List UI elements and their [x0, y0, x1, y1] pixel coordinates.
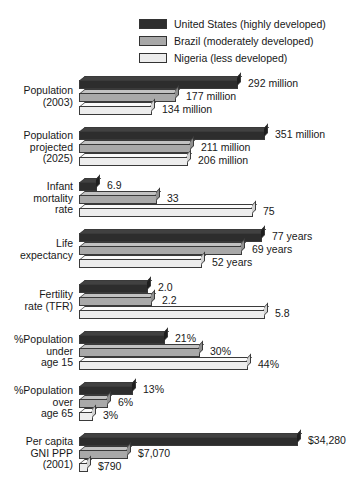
bar-us [79, 437, 298, 446]
bar-top-face [80, 293, 156, 297]
bar-value-label: 30% [210, 345, 231, 357]
category-label-line: age 15 [0, 357, 73, 369]
legend-swatch-us-icon [139, 19, 167, 29]
bar-value-label: 13% [143, 383, 164, 395]
bar-us [79, 335, 165, 344]
bar-br [79, 450, 128, 459]
bar-group-life-expectancy: Lifeexpectancy77 years69 years52 years [0, 229, 358, 268]
bar-us [79, 182, 97, 191]
bar-side-face [156, 188, 160, 201]
category-label-line: age 65 [0, 408, 73, 420]
bar-value-label: 2.2 [162, 294, 177, 306]
bar-value-label: $34,280 [308, 434, 346, 446]
category-label-life-expectancy: Lifeexpectancy [0, 238, 73, 261]
legend-item-us: United States (highly developed) [139, 16, 354, 32]
bar-side-face [241, 239, 245, 252]
bar-side-face [237, 73, 241, 86]
bar-us [79, 284, 148, 293]
legend-item-ng: Nigeria (less developed) [139, 50, 354, 66]
bar-top-face [80, 229, 266, 233]
legend-label-us: United States (highly developed) [174, 18, 326, 30]
bar-group-population-2003: Population(2003)292 million177 million13… [0, 76, 358, 115]
bar-value-label: 134 million [162, 103, 212, 115]
bar-top-face [80, 306, 269, 310]
bar-top-face [80, 280, 152, 284]
bar-side-face [127, 443, 131, 456]
category-label-percent-population-under-15: %Populationunderage 15 [0, 334, 73, 369]
category-label-infant-mortality-rate: Infantmortalityrate [0, 181, 73, 216]
bar-side-face [151, 290, 155, 303]
bar-br [79, 297, 152, 306]
category-label-line: (2001) [0, 459, 73, 471]
category-label-line: rate [0, 204, 73, 216]
bar-top-face [80, 140, 195, 144]
bar-group-population-projected-2025: Populationprojected(2025)351 million211 … [0, 127, 358, 166]
bar-side-face [199, 341, 203, 354]
bar-top-face [80, 357, 252, 361]
bar-top-face [80, 191, 161, 195]
bar-group-percent-population-under-15: %Populationunderage 1521%30%44% [0, 331, 358, 370]
bar-ng [79, 361, 248, 370]
bar-value-label: 69 years [252, 243, 292, 255]
bar-value-label: 351 million [275, 128, 325, 140]
bar-value-label: 52 years [212, 256, 252, 268]
bar-us [79, 233, 262, 242]
bar-top-face [80, 76, 242, 80]
bar-top-face [80, 153, 192, 157]
legend-item-br: Brazil (moderately developed) [139, 33, 354, 49]
bar-side-face [297, 430, 301, 443]
bar-br [79, 348, 200, 357]
chart-legend: United States (highly developed)Brazil (… [139, 16, 354, 67]
bar-value-label: 292 million [248, 77, 298, 89]
category-label-line: rate (TFR) [0, 301, 73, 313]
bar-ng [79, 208, 253, 217]
bar-br [79, 144, 191, 153]
bar-side-face [264, 124, 268, 137]
bar-side-face [252, 201, 256, 214]
bar-top-face [80, 127, 269, 131]
bar-value-label: $790 [98, 460, 121, 472]
bar-value-label: 211 million [201, 141, 250, 153]
bar-top-face [80, 433, 302, 437]
bar-br [79, 93, 176, 102]
bar-side-face [187, 150, 191, 163]
bar-ng [79, 106, 152, 115]
category-label-percent-population-over-65: %Populationoverage 65 [0, 385, 73, 420]
bar-side-face [164, 328, 168, 341]
bar-side-face [151, 99, 155, 112]
category-label-population-projected-2025: Populationprojected(2025) [0, 130, 73, 165]
category-label-line: expectancy [0, 250, 73, 262]
bar-us [79, 80, 238, 89]
bar-value-label: 206 million [198, 154, 248, 166]
bar-side-face [92, 405, 96, 418]
bar-value-label: 6.9 [107, 179, 122, 191]
bar-top-face [80, 446, 132, 450]
bar-value-label: 33 [167, 192, 179, 204]
bar-us [79, 386, 133, 395]
bar-value-label: $7,070 [138, 447, 170, 459]
bar-br [79, 246, 242, 255]
bar-top-face [80, 242, 246, 246]
bar-group-per-capita-gni-ppp-2001: Per capitaGNI PPP(2001)$34,280$7,070$790 [0, 433, 358, 472]
bar-group-percent-population-over-65: %Populationoverage 6513%6%3% [0, 382, 358, 421]
bar-chart-plot-area: Population(2003)292 million177 million13… [0, 76, 358, 500]
bar-side-face [261, 226, 265, 239]
bar-value-label: 5.8 [275, 307, 290, 319]
bar-ng [79, 157, 188, 166]
bar-top-face [80, 344, 204, 348]
bar-value-label: 77 years [272, 230, 312, 242]
bar-group-infant-mortality-rate: Infantmortalityrate6.93375 [0, 178, 358, 217]
bar-top-face [80, 102, 156, 106]
bar-value-label: 6% [118, 396, 133, 408]
category-label-line: (2003) [0, 97, 73, 109]
category-label-line: (2025) [0, 153, 73, 165]
category-label-line: Life [0, 238, 73, 250]
bar-br [79, 195, 157, 204]
bar-value-label: 75 [263, 205, 275, 217]
bar-value-label: 44% [258, 358, 279, 370]
category-label-fertility-rate-tfr: Fertilityrate (TFR) [0, 289, 73, 312]
bar-ng [79, 259, 202, 268]
category-label-population-2003: Population(2003) [0, 85, 73, 108]
bar-top-face [80, 331, 169, 335]
bar-side-face [175, 86, 179, 99]
